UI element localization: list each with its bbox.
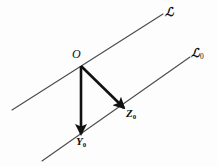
vector-diagram-figure: ℒ ℒ0 O Z0 Y0	[0, 0, 217, 166]
label-line-L: ℒ	[165, 6, 174, 18]
label-vector-Y0: Y0	[76, 136, 86, 149]
label-origin-O: O	[72, 48, 81, 60]
label-line-L0: ℒ0	[191, 47, 204, 61]
label-vector-Z0: Z0	[126, 108, 136, 121]
label-vector-Y0-base: Y	[76, 135, 83, 147]
label-line-L0-subscript: 0	[200, 52, 204, 61]
vector-O-to-Z0	[81, 66, 124, 108]
line-upper-L	[12, 14, 163, 110]
line-lower-L0	[42, 57, 190, 161]
label-vector-Z0-subscript: 0	[133, 113, 136, 120]
diagram-canvas	[0, 0, 217, 166]
label-line-L0-base: ℒ	[191, 46, 200, 60]
label-vector-Z0-base: Z	[126, 107, 133, 119]
label-vector-Y0-subscript: 0	[83, 141, 86, 148]
